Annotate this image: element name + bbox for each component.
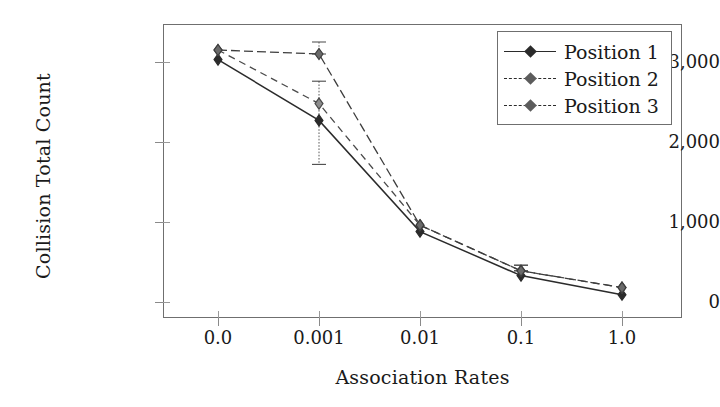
legend-label: Position 2 (556, 68, 659, 90)
legend-item-position-2[interactable]: Position 2 (504, 65, 663, 92)
x-tick (218, 318, 219, 326)
x-tick (622, 318, 623, 326)
legend-swatch-dashed-diamond-icon (504, 70, 556, 88)
legend-label: Position 1 (556, 41, 659, 63)
chart-container: Collision Total Count 01,0002,0003,000 0… (0, 0, 720, 407)
x-tick-label: 1.0 (562, 328, 682, 348)
x-tick (420, 318, 421, 326)
legend: Position 1 Position 2 Position 3 (497, 31, 672, 125)
legend-swatch-solid-diamond-icon (504, 43, 556, 61)
y-axis-title: Collision Total Count (32, 36, 54, 316)
x-axis-title: Association Rates (163, 366, 682, 388)
legend-label: Position 3 (556, 95, 659, 117)
x-tick (521, 318, 522, 326)
legend-item-position-3[interactable]: Position 3 (504, 92, 663, 119)
x-tick (319, 318, 320, 326)
legend-item-position-1[interactable]: Position 1 (504, 38, 663, 65)
legend-swatch-dashed-diamond-alt-icon (504, 97, 556, 115)
